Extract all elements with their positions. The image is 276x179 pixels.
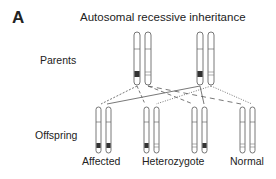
chromosome-mutant [134, 32, 140, 85]
chromosome-normal [145, 32, 151, 85]
label-normal: Normal [230, 155, 264, 167]
offspring-heterozygote-1 [144, 107, 159, 153]
line-dashed [137, 86, 145, 104]
line-dotted [156, 86, 211, 104]
parent-pair-2 [197, 32, 214, 85]
chromosome-normal [208, 32, 214, 85]
offspring-normal [240, 107, 255, 153]
offspring-heterozygote-2 [192, 107, 207, 153]
offspring-affected [96, 107, 111, 153]
line-longdash [148, 86, 241, 104]
line-dotted [211, 86, 252, 104]
label-affected: Affected [82, 155, 120, 167]
inheritance-lines [101, 86, 252, 104]
inheritance-diagram [0, 0, 276, 179]
parent-pair-1 [134, 32, 151, 85]
chromosome-mutant [197, 32, 203, 85]
label-heterozygote: Heterozygote [142, 155, 204, 167]
line-solid [107, 86, 200, 104]
